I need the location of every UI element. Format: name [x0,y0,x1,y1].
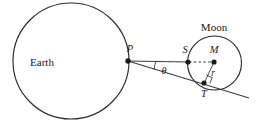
point-m-dot [211,59,216,64]
sight-line-p-to-s [128,61,188,62]
point-m-label: M [209,44,220,55]
radius-label: r [211,68,215,78]
point-p-dot [125,58,130,63]
point-p-label: P [126,43,134,54]
point-s-dot [185,59,190,64]
theta-label: θ [162,65,167,76]
earth-label: Earth [30,56,54,68]
diagram-canvas: Earth Moon P S M T r θ [0,0,260,126]
theta-angle-arc [154,62,156,70]
moon-label: Moon [201,21,228,33]
point-t-label: T [201,88,208,99]
earth-moon-diagram: Earth Moon P S M T r θ [0,0,260,126]
point-t-dot [201,80,206,85]
tangent-line-p-through-t [128,61,249,98]
point-s-label: S [182,44,188,55]
